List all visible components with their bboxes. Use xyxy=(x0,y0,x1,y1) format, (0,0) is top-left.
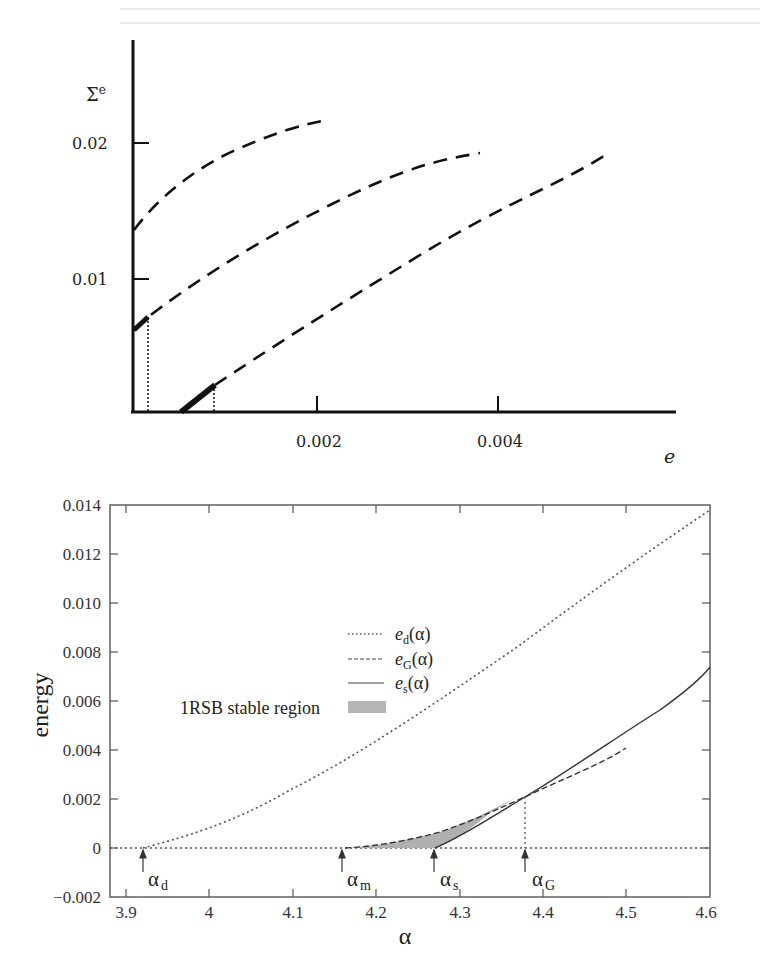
x-tick-labels: 3.9 4 4.1 4.2 4.3 4.4 4.5 4.6 xyxy=(115,903,716,922)
legend-label-ed: ed(α) xyxy=(395,624,430,647)
svg-text:0.004: 0.004 xyxy=(63,741,102,760)
svg-text:0.006: 0.006 xyxy=(63,692,101,711)
legend-label-region: 1RSB stable region xyxy=(180,698,320,718)
curve-upper xyxy=(134,120,327,230)
y-axis-label: Σe xyxy=(86,83,106,105)
curve-ed xyxy=(143,510,710,848)
svg-text:4.2: 4.2 xyxy=(365,903,386,922)
y-tick-label: 0.01 xyxy=(72,270,108,289)
svg-text:3.9: 3.9 xyxy=(115,903,136,922)
y-ticks xyxy=(110,554,710,848)
svg-text:4.3: 4.3 xyxy=(449,903,470,922)
curve-es xyxy=(435,667,710,848)
alpha-m-label: αm xyxy=(347,867,371,893)
legend-label-eG: eG(α) xyxy=(395,649,433,672)
x-axis-label: e xyxy=(664,445,675,467)
svg-text:0.012: 0.012 xyxy=(63,545,101,564)
complexity-plot: 0.02 0.01 0.002 0.004 Σe e xyxy=(0,0,762,470)
svg-text:4.6: 4.6 xyxy=(695,903,716,922)
svg-text:0.010: 0.010 xyxy=(63,594,101,613)
x-axis-label: α xyxy=(399,923,412,949)
alpha-d-label: αd xyxy=(148,867,168,893)
plot-frame xyxy=(110,505,710,897)
thick-segment-lower xyxy=(181,385,215,412)
svg-text:4.4: 4.4 xyxy=(532,903,554,922)
svg-text:0: 0 xyxy=(93,839,102,858)
y-axis-label: energy xyxy=(27,673,53,738)
x-tick-label: 0.002 xyxy=(296,432,342,451)
y-tick-label: 0.02 xyxy=(72,134,108,153)
stable-region-fill xyxy=(345,798,515,848)
svg-text:0.014: 0.014 xyxy=(63,496,102,515)
thick-segment-middle xyxy=(134,317,148,330)
legend-label-es: es(α) xyxy=(395,673,429,696)
svg-text:4.5: 4.5 xyxy=(615,903,636,922)
curve-eG xyxy=(345,748,626,848)
y-tick-labels: 0.014 0.012 0.010 0.008 0.006 0.004 0.00… xyxy=(53,496,101,907)
svg-text:4.1: 4.1 xyxy=(282,903,303,922)
legend: ed(α) eG(α) es(α) 1RSB stable region xyxy=(180,624,433,718)
svg-text:0.008: 0.008 xyxy=(63,643,101,662)
alpha-markers xyxy=(140,850,528,872)
x-ticks xyxy=(126,505,626,897)
curve-lower xyxy=(215,152,610,385)
svg-text:−0.002: −0.002 xyxy=(53,888,101,907)
svg-text:0.002: 0.002 xyxy=(63,790,101,809)
svg-text:4: 4 xyxy=(205,903,214,922)
legend-swatch-region xyxy=(348,701,386,713)
alpha-s-label: αs xyxy=(440,867,458,893)
alpha-G-label: αG xyxy=(532,867,555,893)
x-tick-label: 0.004 xyxy=(477,432,523,451)
